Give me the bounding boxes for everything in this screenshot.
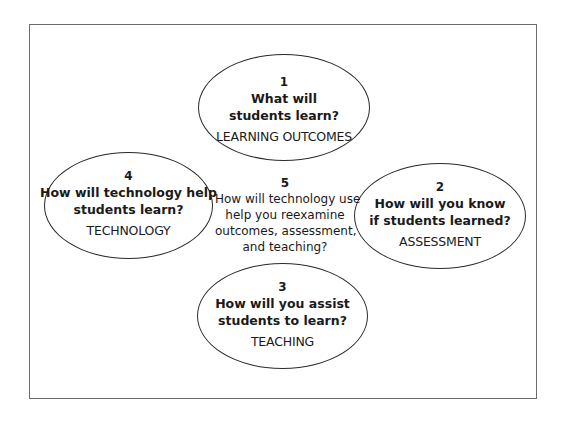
node-question-line: students learn? <box>216 107 352 124</box>
center-number: 5 <box>215 176 355 191</box>
node-question-line: What will <box>216 90 352 107</box>
node-question-line: students to learn? <box>215 312 350 329</box>
node-label: TEACHING <box>215 334 350 350</box>
center-text-line: How will technology use <box>215 191 355 207</box>
node-question-line: if students learned? <box>369 212 510 229</box>
node-assessment: 2 How will you know if students learned?… <box>354 163 526 269</box>
node-number: 1 <box>216 75 352 90</box>
node-label: LEARNING OUTCOMES <box>216 129 352 145</box>
node-learning-outcomes: 1 What will students learn? LEARNING OUT… <box>198 54 370 161</box>
center-text-line: outcomes, assessment, <box>215 223 355 239</box>
center-text-line: help you reexamine <box>215 207 355 223</box>
node-technology: 4 How will technology help students lear… <box>44 152 213 259</box>
node-question-line: How will you know <box>369 195 510 212</box>
node-question-line: How will you assist <box>215 295 350 312</box>
center-text-line: and teaching? <box>215 239 355 255</box>
node-content: 3 How will you assist students to learn?… <box>215 280 350 350</box>
node-content: 4 How will technology help students lear… <box>40 169 217 239</box>
node-teaching: 3 How will you assist students to learn?… <box>197 263 368 369</box>
center-question: 5 How will technology use help you reexa… <box>215 176 355 255</box>
node-number: 4 <box>40 169 217 184</box>
node-content: 2 How will you know if students learned?… <box>369 180 510 250</box>
node-number: 3 <box>215 280 350 295</box>
node-question-line: How will technology help <box>40 184 217 201</box>
node-question-line: students learn? <box>40 201 217 218</box>
node-label: TECHNOLOGY <box>40 223 217 239</box>
node-number: 2 <box>369 180 510 195</box>
node-content: 1 What will students learn? LEARNING OUT… <box>216 75 352 145</box>
node-label: ASSESSMENT <box>369 234 510 250</box>
